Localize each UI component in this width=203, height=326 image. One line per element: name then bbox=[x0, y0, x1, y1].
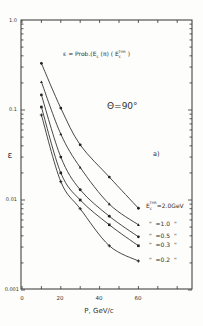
data-point-marker bbox=[40, 113, 43, 116]
data-point-marker bbox=[60, 172, 63, 175]
chart-title: ε = Prob.(Ec (π) ( EcTHR ) bbox=[63, 50, 130, 59]
data-point-marker bbox=[40, 94, 43, 97]
data-point-marker bbox=[137, 244, 140, 247]
series-curve bbox=[41, 115, 138, 261]
y-tick-label: 0.001 bbox=[5, 286, 19, 292]
data-curves bbox=[41, 63, 138, 261]
data-point-marker bbox=[108, 224, 111, 227]
x-tick-label: 40 bbox=[96, 295, 103, 301]
data-point-marker bbox=[40, 106, 43, 109]
x-tick-label: 20 bbox=[57, 295, 64, 301]
legend-entry-2.0: EcTHR=2.0GeV bbox=[146, 201, 185, 211]
data-point-marker bbox=[137, 235, 140, 238]
data-point-marker bbox=[40, 62, 43, 65]
data-point-marker bbox=[137, 259, 140, 262]
legend-entry-0.5: " =0.5 " bbox=[149, 232, 177, 239]
chart-canvas: 1.0 0.1 0.01 0.001 0 20 40 60 P, GeV/c ε… bbox=[0, 0, 203, 326]
data-point-marker bbox=[108, 176, 111, 179]
series-curve bbox=[41, 63, 138, 208]
y-tick-label: 0.01 bbox=[6, 196, 17, 202]
data-point-marker bbox=[79, 143, 82, 146]
y-axis-label: ε bbox=[8, 150, 13, 160]
y-tick-label: 1.0 bbox=[9, 17, 17, 23]
data-point-marker bbox=[59, 107, 62, 110]
legend-entry-0.3: " =0.3 " bbox=[149, 241, 177, 248]
data-point-marker bbox=[137, 207, 140, 210]
angle-annotation: Θ=90° bbox=[107, 101, 138, 111]
data-point-marker bbox=[79, 199, 82, 202]
axis-ticks bbox=[21, 20, 192, 290]
y-tick-label: 0.1 bbox=[9, 106, 17, 112]
panel-label: a) bbox=[153, 150, 160, 158]
data-point-marker bbox=[59, 156, 62, 159]
series-curve bbox=[41, 107, 138, 246]
data-point-marker bbox=[79, 188, 82, 191]
x-axis-label: P, GeV/c bbox=[84, 307, 114, 315]
x-tick-label: 0 bbox=[20, 295, 24, 301]
plot-frame bbox=[21, 20, 192, 289]
data-point-marker bbox=[108, 215, 111, 218]
legend-entry-0.2: " =0.2 " bbox=[149, 256, 177, 263]
legend-entry-1.0: " =1.0 " bbox=[149, 220, 177, 227]
x-tick-label: 60 bbox=[135, 295, 142, 301]
data-point-marker bbox=[40, 80, 43, 83]
data-point-marker bbox=[59, 180, 62, 183]
